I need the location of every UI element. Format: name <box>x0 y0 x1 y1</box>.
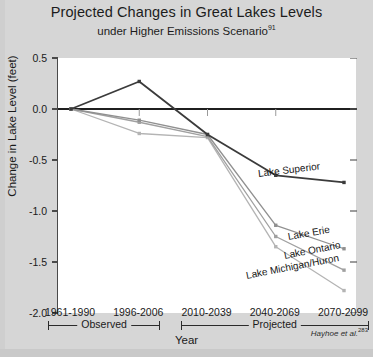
data-point <box>138 132 141 135</box>
bracket-label-observed: Observed <box>77 318 131 331</box>
y-tick-label: -1.5 <box>17 257 47 267</box>
bracket-cap-right <box>159 321 160 330</box>
data-point <box>274 224 277 227</box>
data-point <box>138 80 141 83</box>
data-point <box>342 247 345 250</box>
y-tick-label: -0.5 <box>17 155 47 165</box>
data-point <box>342 268 345 271</box>
chart-subtitle-superscript: 91 <box>268 24 276 31</box>
plot-area <box>57 58 356 313</box>
x-tick-label: 2040-2069 <box>243 307 307 318</box>
x-tick-label: 1996-2006 <box>106 307 170 318</box>
y-axis-label: Change in Lake Level (feet) <box>6 41 18 211</box>
data-point <box>274 245 277 248</box>
citation-text: Hayhoe et al. <box>311 329 358 338</box>
citation: Hayhoe et al.283 <box>311 327 368 338</box>
y-tick-label: 0.0 <box>17 104 47 114</box>
data-point <box>342 181 345 184</box>
citation-superscript: 283 <box>358 327 368 333</box>
data-point <box>69 107 72 110</box>
data-point <box>274 235 277 238</box>
y-tick-label: 0.5 <box>17 53 47 63</box>
x-tick-label: 2070-2099 <box>311 307 373 318</box>
bracket-label-projected: Projected <box>249 318 301 331</box>
chart-svg <box>58 58 357 313</box>
data-point <box>342 289 345 292</box>
data-point <box>138 119 141 122</box>
bracket-observed: Observed <box>48 320 160 331</box>
x-tick-label: 2010-2039 <box>175 307 239 318</box>
figure-panel: Projected Changes in Great Lakes Levels … <box>0 0 373 357</box>
x-tick-label: 1961-1990 <box>38 307 102 318</box>
data-point <box>206 133 209 136</box>
y-tick-label: -1.0 <box>17 206 47 216</box>
chart-subtitle-text: under Higher Emissions Scenario <box>97 25 268 37</box>
bottom-strip <box>0 349 373 357</box>
